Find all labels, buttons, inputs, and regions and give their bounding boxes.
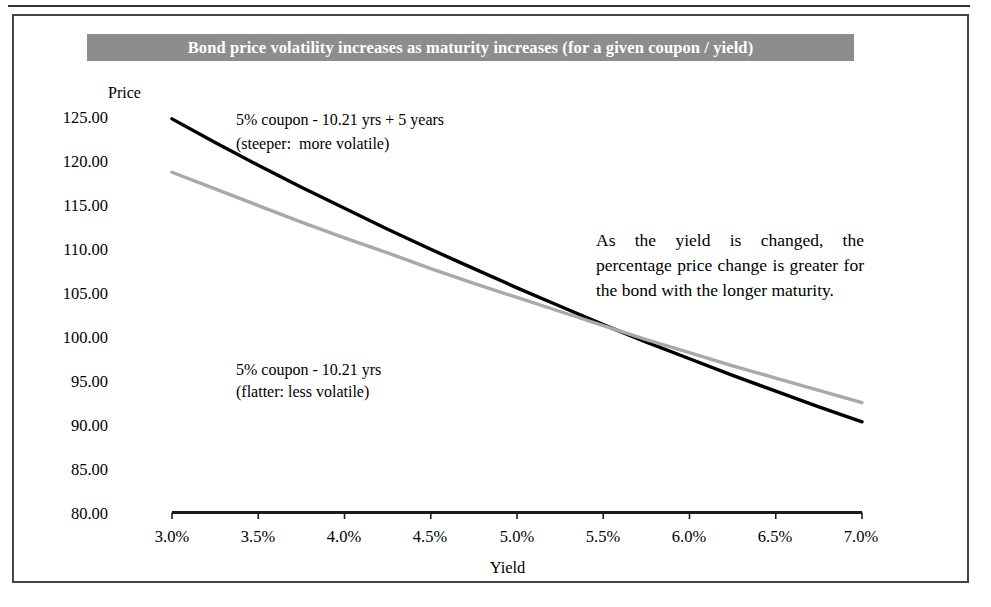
chart-area: Price 125.00 120.00 115.00 110.00 105.00… bbox=[0, 0, 991, 607]
x-axis bbox=[172, 513, 862, 520]
annotation-long-maturity-line1: 5% coupon - 10.21 yrs + 5 years bbox=[236, 110, 444, 130]
x-axis-title-text: Yield bbox=[490, 558, 526, 578]
plot-canvas bbox=[0, 0, 991, 607]
annotation-short-maturity-line2: (flatter: less volatile) bbox=[236, 382, 369, 402]
scanned-page: Bond price volatility increases as matur… bbox=[0, 0, 991, 607]
x-axis-title: Yield bbox=[0, 558, 991, 578]
annotation-long-maturity-line2: (steeper: more volatile) bbox=[236, 134, 389, 154]
annotation-short-maturity-line1: 5% coupon - 10.21 yrs bbox=[236, 360, 381, 380]
explanatory-note: As the yield is changed, the percentage … bbox=[596, 228, 864, 303]
